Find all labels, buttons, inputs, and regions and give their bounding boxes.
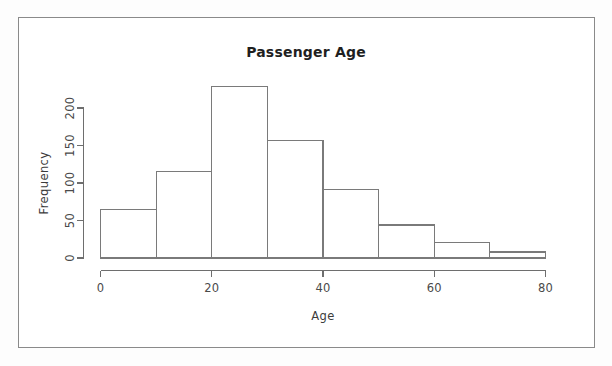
x-axis: 0 20 40 60 80 Age	[97, 271, 553, 324]
x-tick-label-0: 0	[97, 281, 105, 295]
histogram-bar	[490, 252, 546, 258]
histogram-bar	[212, 86, 268, 258]
histogram-chart: Passenger Age 0 50 100 150 200 Frequency	[0, 0, 612, 366]
x-tick-label-40: 40	[315, 281, 330, 295]
histogram-bar	[379, 225, 435, 258]
y-tick-label-100: 100	[63, 172, 77, 195]
y-axis: 0 50 100 150 200 Frequency	[37, 97, 84, 262]
x-axis-title: Age	[311, 309, 334, 323]
histogram-bars	[101, 86, 546, 258]
y-axis-title: Frequency	[37, 151, 51, 214]
histogram-bar	[434, 242, 490, 258]
y-tick-label-0: 0	[63, 254, 77, 262]
y-tick-label-50: 50	[63, 213, 77, 228]
histogram-bar	[156, 172, 212, 258]
histogram-bar	[323, 190, 379, 258]
y-tick-label-150: 150	[63, 134, 77, 157]
histogram-bar	[267, 140, 323, 258]
x-tick-label-60: 60	[427, 281, 442, 295]
x-tick-label-80: 80	[538, 281, 553, 295]
x-tick-label-20: 20	[204, 281, 219, 295]
screenshot-root: Passenger Age 0 50 100 150 200 Frequency	[0, 0, 612, 366]
y-tick-label-200: 200	[63, 97, 77, 120]
chart-title: Passenger Age	[246, 44, 366, 60]
histogram-bar	[101, 209, 157, 258]
